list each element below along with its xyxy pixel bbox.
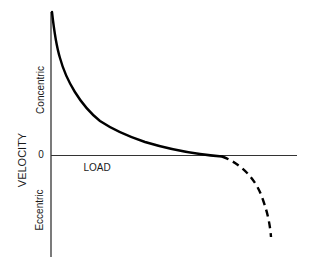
eccentric-label: Eccentric bbox=[35, 189, 45, 230]
y-axis-label: VELOCITY bbox=[17, 133, 27, 187]
x-axis-label: LOAD bbox=[83, 163, 110, 173]
eccentric-curve bbox=[222, 157, 271, 238]
concentric-label: Concentric bbox=[36, 66, 46, 114]
zero-tick-label: 0 bbox=[38, 150, 44, 160]
concentric-curve bbox=[52, 12, 222, 157]
force-velocity-chart bbox=[0, 0, 309, 271]
